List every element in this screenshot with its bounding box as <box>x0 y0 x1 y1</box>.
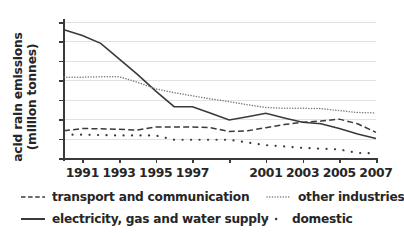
legend-entry[interactable]: other industries <box>266 190 404 204</box>
x-axis-line <box>63 158 377 160</box>
legend-label: domestic <box>292 212 353 226</box>
y-tick-mark <box>59 100 64 102</box>
y-axis-title-line-2: (million tonnes) <box>25 44 39 151</box>
y-axis-title-line-1: acid rain emissions <box>11 32 25 161</box>
x-tick-mark <box>266 158 268 163</box>
x-tick-mark <box>229 158 231 163</box>
series-line <box>64 77 376 113</box>
series-line <box>64 30 376 139</box>
legend-label: transport and communication <box>52 190 249 204</box>
legend-row: transport and communicationother industr… <box>20 186 382 207</box>
x-tick-mark <box>303 158 305 163</box>
series-layer <box>64 22 376 158</box>
legend-swatch-dots-icon <box>266 213 286 225</box>
y-axis-title: acid rain emissions (million tonnes) <box>7 21 43 173</box>
x-tick-mark <box>119 158 121 163</box>
legend-swatch-dotted-icon <box>266 191 292 203</box>
x-tick-label: 1997 <box>169 165 215 180</box>
y-tick-mark <box>59 80 64 82</box>
y-tick-mark <box>59 61 64 63</box>
x-tick-mark <box>82 158 84 163</box>
legend-label: electricity, gas and water supply <box>52 212 268 226</box>
x-tick-mark <box>339 158 341 163</box>
legend-row: electricity, gas and water supplydomesti… <box>20 208 382 229</box>
legend-label: other industries <box>298 190 404 204</box>
x-tick-mark <box>156 158 158 163</box>
y-tick-mark <box>59 119 64 121</box>
x-tick-label: 2007 <box>353 165 399 180</box>
legend-swatch-solid-icon <box>20 213 46 225</box>
x-tick-mark <box>192 158 194 163</box>
x-tick-mark <box>376 158 378 163</box>
legend-entry[interactable]: electricity, gas and water supply <box>20 212 268 226</box>
y-tick-mark <box>59 22 64 24</box>
y-tick-mark <box>59 139 64 141</box>
chart-legend: transport and communicationother industr… <box>20 186 382 230</box>
y-tick-mark <box>59 41 64 43</box>
series-line <box>64 135 376 154</box>
legend-entry[interactable]: transport and communication <box>20 190 249 204</box>
legend-swatch-dashed-icon <box>20 191 46 203</box>
y-tick-mark <box>59 158 64 160</box>
legend-entry[interactable]: domestic <box>266 212 353 226</box>
plot-area: 00.511.522.533.5199119931995199720012003… <box>64 22 376 158</box>
